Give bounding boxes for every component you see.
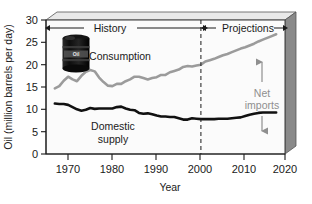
x-tick-label-1990: 1990 bbox=[144, 163, 168, 175]
x-axis: 1970 1980 1990 2000 2010 2020 bbox=[46, 154, 297, 175]
oil-drum-icon: Oil bbox=[63, 35, 90, 73]
net-imports-label-2: imports bbox=[245, 99, 279, 111]
y-tick-label-5: 5 bbox=[32, 126, 38, 138]
history-label: History bbox=[94, 22, 127, 34]
x-tick-label-1970: 1970 bbox=[56, 163, 80, 175]
y-tick-label-25: 25 bbox=[26, 36, 38, 48]
y-tick-label-0: 0 bbox=[32, 148, 38, 160]
net-imports-label: Net bbox=[254, 87, 270, 99]
y-tick-label-30: 30 bbox=[26, 14, 38, 26]
x-tick-label-2000: 2000 bbox=[188, 163, 212, 175]
y-tick-label-15: 15 bbox=[26, 81, 38, 93]
y-tick-label-10: 10 bbox=[26, 103, 38, 115]
domestic-supply-series-label-2: supply bbox=[98, 133, 129, 145]
projections-label: Projections bbox=[222, 22, 274, 34]
consumption-series-label: Consumption bbox=[89, 50, 151, 62]
y-axis-title: Oil (million barrels per day) bbox=[2, 24, 14, 149]
x-tick-label-2010: 2010 bbox=[232, 163, 256, 175]
y-axis: 0 5 10 15 20 25 30 bbox=[26, 14, 46, 160]
x-tick-label-2020: 2020 bbox=[273, 163, 297, 175]
domestic-supply-series-label: Domestic bbox=[91, 120, 135, 132]
x-tick-label-1980: 1980 bbox=[100, 163, 124, 175]
chart-svg: 0 5 10 15 20 25 30 Oil (million barrels … bbox=[0, 0, 312, 204]
oil-drum-text: Oil bbox=[73, 51, 80, 57]
y-tick-label-20: 20 bbox=[26, 59, 38, 71]
oil-supply-consumption-chart: 0 5 10 15 20 25 30 Oil (million barrels … bbox=[0, 0, 312, 204]
x-axis-title: Year bbox=[159, 181, 181, 193]
